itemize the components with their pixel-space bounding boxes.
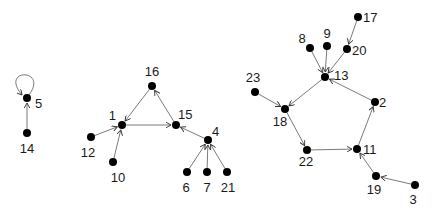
node-label-22: 22 — [299, 154, 313, 169]
node-21 — [223, 168, 231, 176]
graph-canvas: 5141611512104672117208913231822211193 — [0, 0, 432, 217]
node-label-1: 1 — [109, 108, 116, 123]
node-label-14: 14 — [20, 141, 34, 156]
node-17 — [354, 13, 362, 21]
node-4 — [204, 136, 212, 144]
node-label-12: 12 — [81, 145, 95, 160]
edge-12-1 — [95, 127, 118, 136]
node-5 — [23, 94, 31, 102]
node-14 — [23, 129, 31, 137]
node-label-4: 4 — [212, 124, 219, 139]
node-label-9: 9 — [323, 26, 330, 41]
edge-11-2 — [358, 107, 373, 146]
node-label-10: 10 — [111, 170, 125, 185]
node-7 — [203, 168, 211, 176]
node-9 — [323, 42, 331, 50]
edge-7-4 — [207, 145, 208, 168]
edge-10-1 — [114, 130, 121, 158]
node-label-19: 19 — [367, 182, 381, 197]
edge-15-16 — [155, 90, 174, 121]
node-label-18: 18 — [273, 114, 287, 129]
edge-23-18 — [258, 94, 280, 107]
node-label-17: 17 — [363, 10, 377, 25]
edge-6-4 — [189, 144, 205, 168]
node-12 — [87, 133, 95, 141]
edge-3-19 — [381, 177, 411, 184]
node-label-8: 8 — [298, 31, 305, 46]
node-22 — [303, 146, 311, 154]
node-16 — [148, 82, 156, 90]
edge-22-11 — [311, 149, 352, 150]
node-label-20: 20 — [352, 43, 366, 58]
edge-21-4 — [211, 144, 225, 168]
node-11 — [353, 145, 361, 153]
edge-4-15 — [181, 127, 205, 138]
node-19 — [372, 172, 380, 180]
directed-graph: 5141611512104672117208913231822211193 — [0, 0, 432, 217]
node-label-21: 21 — [221, 180, 235, 195]
node-1 — [118, 121, 126, 129]
node-20 — [343, 45, 351, 53]
edge-17-20 — [349, 21, 357, 44]
edge-18-22 — [287, 113, 305, 146]
node-3 — [411, 181, 419, 189]
node-label-3: 3 — [409, 192, 416, 207]
edge-9-13 — [325, 50, 326, 72]
node-label-23: 23 — [246, 70, 260, 85]
node-18 — [281, 105, 289, 113]
labels-layer: 5141611512104672117208913231822211193 — [20, 10, 417, 207]
node-label-16: 16 — [145, 64, 159, 79]
edge-8-13 — [312, 52, 323, 73]
node-label-2: 2 — [379, 95, 386, 110]
node-10 — [109, 158, 117, 166]
node-label-6: 6 — [182, 180, 189, 195]
node-6 — [183, 168, 191, 176]
node-15 — [172, 121, 180, 129]
node-23 — [251, 88, 259, 96]
node-label-7: 7 — [203, 180, 210, 195]
edge-16-1 — [125, 89, 150, 121]
edge-13-18 — [289, 79, 322, 105]
node-13 — [321, 73, 329, 81]
node-2 — [371, 98, 379, 106]
node-label-13: 13 — [334, 68, 348, 83]
edge-5-5 — [16, 75, 34, 95]
node-label-15: 15 — [178, 107, 192, 122]
node-8 — [306, 44, 314, 52]
node-label-11: 11 — [363, 142, 377, 157]
node-label-5: 5 — [35, 96, 42, 111]
